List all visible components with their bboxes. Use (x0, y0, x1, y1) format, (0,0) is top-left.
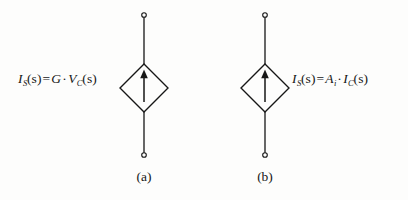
source-arrow-head-a (140, 70, 148, 79)
circuit-drawing-canvas (0, 0, 408, 200)
circuit-b (241, 13, 289, 158)
equation-b-lhs-arg: (s) (301, 71, 316, 86)
equation-a-rhs-second-symbol: V (68, 71, 76, 86)
equation-a-rhs-second-arg: (s) (82, 71, 97, 86)
source-arrow-head-b (261, 70, 269, 79)
equation-b-rhs-second-arg: (s) (354, 71, 369, 86)
figure-dependent-current-sources: IS(s)=G·VC(s) IS(s)=Ai·IC(s) (a) (b) (0, 0, 408, 200)
bottom-terminal-node-b (263, 153, 268, 158)
equation-circuit-b: IS(s)=Ai·IC(s) (292, 72, 368, 86)
equation-a-equals: = (42, 71, 52, 86)
equation-a-lhs-subscript: S (23, 78, 27, 88)
circuit-a (120, 13, 168, 158)
equation-a-lhs-arg: (s) (27, 71, 42, 86)
equation-a-rhs-second-subscript: C (77, 78, 83, 88)
top-terminal-node-b (263, 13, 268, 18)
equation-b-lhs-subscript: S (297, 78, 301, 88)
caption-a: (a) (124, 170, 164, 184)
equation-b-rhs-first-symbol: A (325, 71, 333, 86)
bottom-terminal-node-a (142, 153, 147, 158)
equation-circuit-a: IS(s)=G·VC(s) (18, 72, 97, 86)
equation-b-equals: = (316, 71, 326, 86)
caption-b: (b) (245, 170, 285, 184)
equation-b-rhs-second-subscript: C (348, 78, 354, 88)
equation-b-lhs-symbol: I (292, 71, 297, 86)
top-terminal-node-a (142, 13, 147, 18)
equation-a-rhs-first-symbol: G (51, 71, 61, 86)
equation-a-lhs-symbol: I (18, 71, 23, 86)
